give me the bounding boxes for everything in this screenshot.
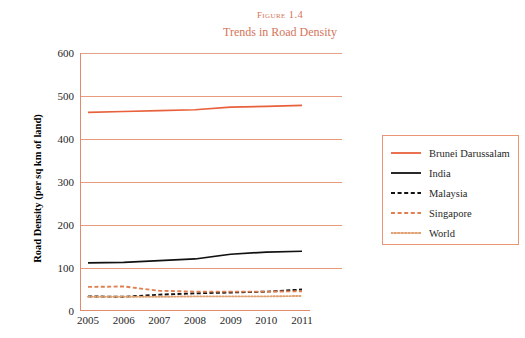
legend-swatch-icon [391,187,421,199]
y-tick-300: 300 [40,176,74,188]
legend-label: India [429,168,451,179]
series-line-singapore [88,286,302,291]
x-tick-2007: 2007 [139,314,179,326]
legend-swatch-icon [391,207,421,219]
legend-item-malaysia[interactable]: Malaysia [391,183,518,203]
figure-number: Figure 1.4 [160,6,400,23]
legend-label: World [429,228,455,239]
series-line-brunei-darussalam [88,105,302,112]
x-tick-2010: 2010 [246,314,286,326]
legend-swatch-icon [391,147,421,159]
x-tick-2009: 2009 [211,314,251,326]
legend-label: Brunei Darussalam [429,148,510,159]
y-axis-tick-labels: 6005004003002001000 [36,53,74,311]
y-tick-500: 500 [40,90,74,102]
legend-label: Singapore [429,208,472,219]
legend-item-brunei-darussalam[interactable]: Brunei Darussalam [391,143,518,163]
chart-legend: Brunei DarussalamIndiaMalaysiaSingaporeW… [382,135,519,245]
legend-label: Malaysia [429,188,468,199]
legend-swatch-icon [391,167,421,179]
chart-plot-area [80,53,342,311]
x-tick-2011: 2011 [282,314,322,326]
chart-series-canvas [80,53,310,311]
legend-item-world[interactable]: World [391,223,518,243]
y-tick-600: 600 [40,47,74,59]
y-tick-200: 200 [40,219,74,231]
figure-subtitle: Trends in Road Density [160,24,400,40]
x-tick-2005: 2005 [68,314,108,326]
x-axis-tick-labels: 2005200620072008200920102011 [80,314,310,332]
x-tick-2008: 2008 [175,314,215,326]
figure-title: Figure 1.4 Trends in Road Density [160,6,400,40]
x-tick-2006: 2006 [104,314,144,326]
y-tick-400: 400 [40,133,74,145]
series-line-world [88,296,302,297]
series-line-india [88,251,302,263]
legend-item-india[interactable]: India [391,163,518,183]
legend-swatch-icon [391,227,421,239]
legend-item-singapore[interactable]: Singapore [391,203,518,223]
y-tick-100: 100 [40,262,74,274]
